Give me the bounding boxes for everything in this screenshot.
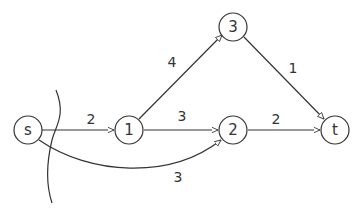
node-s: s [14, 116, 42, 144]
node-label-1: 1 [124, 121, 134, 139]
edge-label-s-2: 3 [174, 169, 183, 185]
node-t: t [321, 116, 349, 144]
edge-label-s-1: 2 [87, 111, 96, 127]
node-label-2: 2 [228, 121, 238, 139]
node-3: 3 [219, 13, 247, 41]
node-label-s: s [24, 121, 32, 139]
edge-1-3 [139, 35, 222, 119]
node-label-t: t [332, 121, 338, 139]
edge-label-3-t: 1 [289, 60, 298, 76]
flow-network-diagram: 2 4 3 3 1 2 s 1 2 3 t [0, 0, 361, 214]
edge-label-1-3: 4 [168, 54, 177, 70]
edge-label-1-2: 3 [178, 108, 187, 124]
node-2: 2 [219, 116, 247, 144]
edge-3-t [244, 37, 324, 119]
node-1: 1 [115, 116, 143, 144]
edge-label-2-t: 2 [272, 111, 281, 127]
node-label-3: 3 [228, 18, 238, 36]
